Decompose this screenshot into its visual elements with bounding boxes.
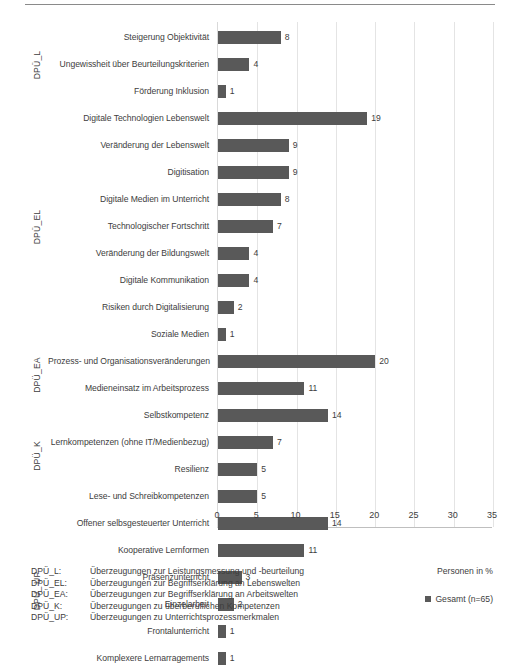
bar bbox=[218, 652, 226, 665]
category-label-axis: Steigerung ObjektivitätUngewissheit über… bbox=[48, 22, 213, 528]
bar-value-label: 11 bbox=[308, 382, 317, 395]
bar-chart: DPÜ_LDPÜ_ELDPÜ_EADPÜ_KDPÜ_ UP Steigerung… bbox=[0, 22, 515, 542]
category-label: Risiken durch Digitalisierung bbox=[48, 302, 213, 312]
category-label: Frontalunterricht bbox=[48, 626, 213, 636]
footnote-description: Überzeugungen zur Leistungsmessung und -… bbox=[90, 566, 371, 578]
bar-value-label: 2 bbox=[238, 301, 243, 314]
bar bbox=[218, 625, 226, 638]
gridline bbox=[297, 22, 298, 527]
category-label: Prozess- und Organisationsveränderungen bbox=[48, 356, 213, 366]
bar-value-label: 7 bbox=[277, 436, 282, 449]
legend-swatch-gesamt bbox=[425, 596, 431, 602]
footnote-description: Überzeugungen zu überberuflichen Kompete… bbox=[90, 601, 371, 613]
bar bbox=[218, 139, 289, 152]
bar bbox=[218, 301, 234, 314]
category-label: Medieneinsatz im Arbeitsprozess bbox=[48, 383, 213, 393]
bar-value-label: 1 bbox=[230, 328, 235, 341]
bar bbox=[218, 328, 226, 341]
bar-value-label: 1 bbox=[230, 652, 235, 665]
bar bbox=[218, 463, 257, 476]
gridline bbox=[336, 22, 337, 527]
footnote-description: Überzeugungen zu Unterrichtsprozessmerkm… bbox=[90, 612, 371, 624]
bar bbox=[218, 436, 273, 449]
group-label-axis: DPÜ_LDPÜ_ELDPÜ_EADPÜ_KDPÜ_ UP bbox=[26, 22, 48, 528]
group-label: DPÜ_EA bbox=[26, 355, 48, 395]
x-tick-label: 0 bbox=[214, 510, 219, 520]
category-label: Digitale Kommunikation bbox=[48, 275, 213, 285]
group-label: DPÜ_K bbox=[26, 409, 48, 503]
bar bbox=[218, 544, 304, 557]
bar bbox=[218, 274, 249, 287]
category-label: Komplexere Lernarragements bbox=[48, 653, 213, 663]
footnote-row: DPÜ_UP:Überzeugungen zu Unterrichtsproze… bbox=[31, 612, 371, 624]
bar-value-label: 8 bbox=[285, 31, 290, 44]
legend-label-gesamt: Gesamt (n=65) bbox=[435, 594, 493, 604]
gridline bbox=[454, 22, 455, 527]
bar bbox=[218, 220, 273, 233]
category-label: Ungewissheit über Beurteilungskriterien bbox=[48, 59, 213, 69]
category-label: Offener selbsgesteuerter Unterricht bbox=[48, 518, 213, 528]
bar bbox=[218, 382, 304, 395]
bar-value-label: 1 bbox=[230, 85, 235, 98]
x-tick-label: 20 bbox=[369, 510, 379, 520]
gridline bbox=[493, 22, 494, 527]
footnote-key: DPÜ_EA: bbox=[31, 589, 90, 601]
category-label: Digitisation bbox=[48, 167, 213, 177]
bar bbox=[218, 166, 289, 179]
x-tick-label: 15 bbox=[330, 510, 340, 520]
category-label: Lernkompetenzen (ohne IT/Medienbezug) bbox=[48, 437, 213, 447]
x-tick-label: 10 bbox=[291, 510, 301, 520]
x-tick-label: 5 bbox=[254, 510, 259, 520]
category-label: Veränderung der Bildungswelt bbox=[48, 248, 213, 258]
bar-value-label: 8 bbox=[285, 193, 290, 206]
x-axis-title: Personen in % bbox=[437, 566, 493, 576]
footnote-description: Überzeugungen zur Begriffserklärung an A… bbox=[90, 589, 371, 601]
bar-value-label: 4 bbox=[253, 58, 258, 71]
category-label: Kooperative Lernformen bbox=[48, 545, 213, 555]
bar-value-label: 5 bbox=[261, 463, 266, 476]
bar-value-label: 4 bbox=[253, 247, 258, 260]
footnote-key: DPÜ_K: bbox=[31, 601, 90, 613]
bar-value-label: 9 bbox=[293, 166, 298, 179]
category-label: Soziale Medien bbox=[48, 329, 213, 339]
bar bbox=[218, 31, 281, 44]
footnote-row: DPÜ_EL:Überzeugungen zur Begriffserkläru… bbox=[31, 578, 371, 590]
bar bbox=[218, 58, 249, 71]
footnote-key: DPÜ_L: bbox=[31, 566, 90, 578]
footnote-key: DPÜ_EL: bbox=[31, 578, 90, 590]
group-label: DPÜ_EL bbox=[26, 112, 48, 341]
category-label: Digitale Medien im Unterricht bbox=[48, 194, 213, 204]
plot-area: 841199987442120111475514113211 bbox=[217, 22, 492, 528]
bar-value-label: 20 bbox=[379, 355, 389, 368]
bar-value-label: 9 bbox=[293, 139, 298, 152]
bar bbox=[218, 247, 249, 260]
bar bbox=[218, 112, 367, 125]
category-label: Selbstkompetenz bbox=[48, 410, 213, 420]
category-label: Lese- und Schreibkompetenzen bbox=[48, 491, 213, 501]
bar bbox=[218, 355, 375, 368]
category-label: Digitale Technologien Lebenswelt bbox=[48, 113, 213, 123]
gridline bbox=[375, 22, 376, 527]
category-label: Resilienz bbox=[48, 464, 213, 474]
bar bbox=[218, 490, 257, 503]
footnote-description: Überzeugungen zur Begriffserklärung an L… bbox=[90, 578, 371, 590]
footnote-row: DPÜ_L:Überzeugungen zur Leistungsmessung… bbox=[31, 566, 371, 578]
group-label: DPÜ_L bbox=[26, 31, 48, 98]
category-label: Technologischer Fortschritt bbox=[48, 221, 213, 231]
bar-value-label: 19 bbox=[371, 112, 381, 125]
top-divider bbox=[25, 4, 495, 5]
x-axis-ticks: 05101520253035 bbox=[217, 508, 492, 524]
chart-legend: Gesamt (n=65) bbox=[425, 594, 493, 604]
category-label: Förderung Inklusion bbox=[48, 86, 213, 96]
bar-value-label: 5 bbox=[261, 490, 266, 503]
category-label: Veränderung der Lebenswelt bbox=[48, 140, 213, 150]
x-tick-label: 30 bbox=[448, 510, 458, 520]
category-label: Steigerung Objektivität bbox=[48, 32, 213, 42]
bar-value-label: 7 bbox=[277, 220, 282, 233]
footnote-key: DPÜ_UP: bbox=[31, 612, 90, 624]
footnote-row: DPÜ_EA:Überzeugungen zur Begriffserkläru… bbox=[31, 589, 371, 601]
x-tick-label: 25 bbox=[408, 510, 418, 520]
bar bbox=[218, 193, 281, 206]
x-tick-label: 35 bbox=[487, 510, 497, 520]
bar-value-label: 14 bbox=[332, 409, 342, 422]
